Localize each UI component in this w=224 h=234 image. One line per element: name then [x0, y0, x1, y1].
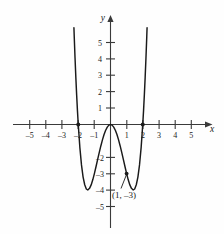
point-annotation-label: (1, –3) — [112, 190, 136, 200]
x-tick-label--2: –2 — [73, 131, 82, 140]
y-tick-label-1: 1 — [98, 104, 102, 113]
x-axis-label: x — [209, 124, 215, 134]
y-tick-label-3: 3 — [98, 71, 102, 80]
y-tick-label--3: –3 — [95, 170, 104, 179]
x-tick-label--5: –5 — [25, 131, 34, 140]
coordinate-plane-svg: –5 –4 –3 –2 –1 1 2 3 4 5 5 4 3 2 1 –2 –3… — [0, 0, 224, 234]
y-tick-label-5: 5 — [98, 39, 102, 48]
y-tick-label--5: –5 — [95, 203, 104, 212]
y-tick-labels: 5 4 3 2 1 –2 –3 –4 –5 — [95, 39, 104, 212]
marked-point-1-neg3 — [125, 172, 129, 176]
x-tick-label-1: 1 — [125, 131, 129, 140]
annotation-leader-line — [121, 175, 126, 189]
y-tick-label--2: –2 — [95, 154, 104, 163]
y-tick-label-2: 2 — [98, 88, 102, 97]
graph-figure: –5 –4 –3 –2 –1 1 2 3 4 5 5 4 3 2 1 –2 –3… — [0, 0, 224, 234]
x-tick-label-5: 5 — [189, 131, 193, 140]
x-tick-label--4: –4 — [41, 131, 50, 140]
root-point-2 — [141, 123, 145, 127]
y-axis-arrow-icon — [107, 15, 113, 22]
root-point--2 — [76, 123, 80, 127]
x-tick-label--1: –1 — [89, 131, 98, 140]
y-tick-label--4: –4 — [95, 186, 104, 195]
x-tick-labels: –5 –4 –3 –2 –1 1 2 3 4 5 — [25, 131, 194, 140]
x-tick-label-4: 4 — [173, 131, 177, 140]
y-tick-label-4: 4 — [98, 55, 102, 64]
x-tick-label-3: 3 — [157, 131, 161, 140]
y-axis-label: y — [100, 13, 106, 23]
x-tick-label--3: –3 — [57, 131, 66, 140]
